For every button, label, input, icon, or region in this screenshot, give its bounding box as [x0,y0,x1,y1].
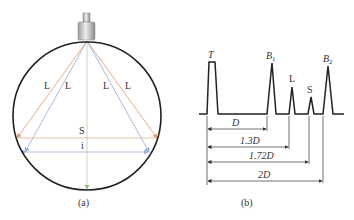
panel-b: T B1 L S B2 D 1.3D 1.72D 2D (b) [199,49,344,209]
probe-icon [78,13,95,40]
peak-label-t: T [208,49,215,60]
ray-label-l4: L [125,80,131,91]
dim-label-2d: 2D [258,169,271,180]
figure: L L L L S i (a) T B1 L S B2 D [0,0,354,220]
peak-label-b1: B1 [266,50,276,63]
dim-label-d: D [231,117,240,128]
dim-label-1-3d: 1.3D [240,135,261,146]
caption-a: (a) [78,197,89,209]
ray-label-l1: L [44,80,50,91]
ray-label-l3: L [103,80,109,91]
peak-label-l: L [289,73,295,84]
peak-label-s: S [307,84,313,95]
panel-a: L L L L S i (a) [13,13,161,209]
dim-label-1-72d: 1.72D [249,150,275,161]
a-scan-trace [199,62,344,114]
i-label: i [81,140,84,151]
peak-label-b2: B2 [323,53,333,66]
s-label: S [79,125,85,136]
caption-b: (b) [241,197,253,209]
ray-label-l2: L [65,80,71,91]
